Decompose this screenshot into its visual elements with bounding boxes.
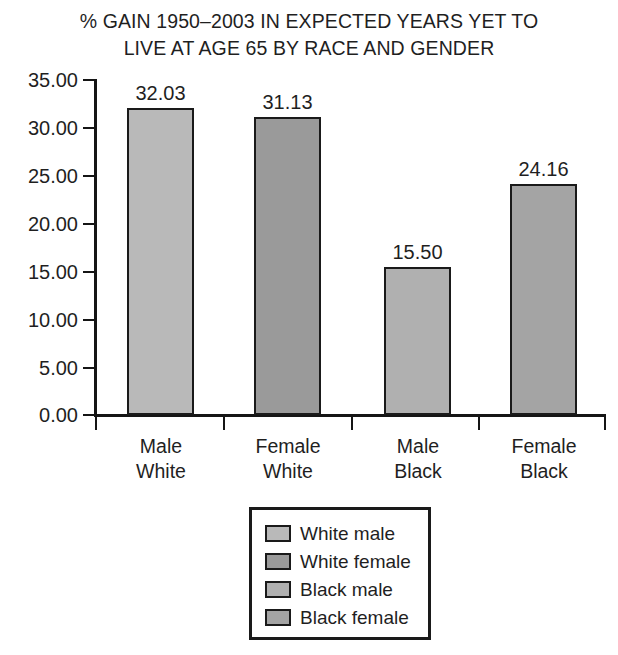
bar-female-white[interactable] [254, 117, 321, 415]
y-tick-label-text: 25.00 [0, 166, 78, 186]
legend-item-white-female[interactable]: White female [265, 547, 428, 575]
x-category-label-female-white: Female White [227, 434, 349, 484]
y-tick-label: 5.00 [0, 358, 78, 378]
y-tick-label: 0.00 [0, 405, 78, 425]
x-category-label-male-white: Male White [100, 434, 222, 484]
y-tick-label-text: 30.00 [0, 118, 78, 138]
y-tick-label: 25.00 [0, 166, 78, 186]
x-category-line-1: Male [100, 434, 222, 459]
x-category-line-1: Male [357, 434, 479, 459]
y-tick-label-text: 5.00 [0, 358, 78, 378]
y-tick-label: 30.00 [0, 118, 78, 138]
y-tick-mark [83, 175, 95, 177]
bar-value-label: 15.50 [364, 242, 471, 262]
legend-label: White female [300, 552, 411, 571]
y-tick-label-text: 10.00 [0, 310, 78, 330]
y-tick-label: 35.00 [0, 70, 78, 90]
y-tick-label: 20.00 [0, 214, 78, 234]
legend-swatch-icon [265, 609, 291, 626]
bar-value-label: 32.03 [107, 83, 214, 103]
y-tick-mark [83, 223, 95, 225]
x-category-line-2: Black [357, 459, 479, 484]
plot-area: 35.00 30.00 25.00 20.00 15.00 10.00 5.00… [0, 0, 618, 500]
bar-chart: % GAIN 1950–2003 IN EXPECTED YEARS YET T… [0, 0, 618, 655]
bar-value-label: 31.13 [234, 92, 341, 112]
legend-label: Black male [300, 580, 393, 599]
y-tick-label-text: 0.00 [0, 405, 78, 425]
legend-swatch-icon [265, 553, 291, 570]
x-category-line-1: Female [483, 434, 605, 459]
bar-female-black[interactable] [510, 184, 577, 415]
legend-swatch-icon [265, 581, 291, 598]
x-tick-mark [95, 417, 97, 430]
y-tick-mark [83, 271, 95, 273]
legend-item-black-male[interactable]: Black male [265, 575, 428, 603]
chart-legend: White male White female Black male Black… [249, 507, 431, 640]
y-tick-label-text: 20.00 [0, 214, 78, 234]
x-category-line-2: Black [483, 459, 605, 484]
legend-item-black-female[interactable]: Black female [265, 603, 428, 631]
x-tick-mark [604, 417, 606, 430]
y-tick-label-text: 35.00 [0, 70, 78, 90]
legend-label: Black female [300, 608, 409, 627]
y-tick-mark [83, 414, 95, 416]
y-tick-label: 10.00 [0, 310, 78, 330]
x-category-label-female-black: Female Black [483, 434, 605, 484]
x-tick-mark [478, 417, 480, 430]
x-category-line-1: Female [227, 434, 349, 459]
x-tick-mark [223, 417, 225, 430]
y-tick-mark [83, 319, 95, 321]
bar-value-label: 24.16 [490, 159, 597, 179]
x-category-line-2: White [227, 459, 349, 484]
bar-male-black[interactable] [384, 267, 451, 415]
y-tick-mark [83, 367, 95, 369]
bar-male-white[interactable] [127, 108, 194, 415]
legend-label: White male [300, 524, 395, 543]
x-category-label-male-black: Male Black [357, 434, 479, 484]
y-tick-mark [83, 127, 95, 129]
legend-swatch-icon [265, 525, 291, 542]
x-tick-mark [351, 417, 353, 430]
legend-item-white-male[interactable]: White male [265, 519, 428, 547]
y-tick-label-text: 15.00 [0, 262, 78, 282]
y-tick-mark [83, 79, 95, 81]
y-tick-label: 15.00 [0, 262, 78, 282]
x-category-line-2: White [100, 459, 222, 484]
